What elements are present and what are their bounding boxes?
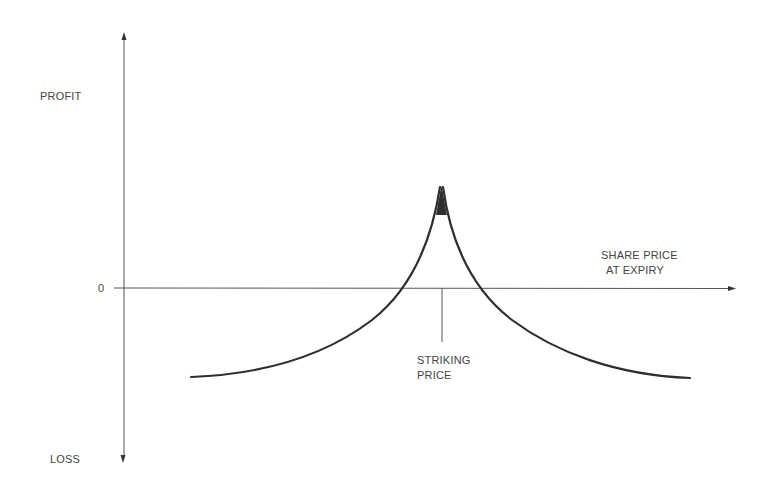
- striking-price-label-line1: STRIKING: [417, 354, 471, 366]
- x-axis-label-line1: SHARE PRICE: [601, 249, 678, 261]
- y-axis-down-arrow-icon: [121, 455, 126, 463]
- y-axis-up-arrow-icon: [122, 32, 127, 40]
- y-axis: [121, 32, 127, 463]
- x-axis-label: SHARE PRICE AT EXPIRY: [601, 248, 678, 278]
- payoff-curve-right: [443, 187, 690, 378]
- origin-zero-label: 0: [98, 281, 104, 296]
- profit-label: PROFIT: [40, 89, 82, 104]
- payoff-curve: [191, 186, 690, 378]
- payoff-curve-left: [191, 187, 440, 377]
- x-axis: [114, 286, 736, 291]
- striking-price-label-line2: PRICE: [417, 368, 471, 383]
- striking-price-label: STRIKING PRICE: [417, 353, 471, 383]
- loss-label: LOSS: [50, 452, 80, 467]
- x-axis-right-arrow-icon: [728, 286, 736, 291]
- x-axis-label-line2: AT EXPIRY: [601, 263, 678, 278]
